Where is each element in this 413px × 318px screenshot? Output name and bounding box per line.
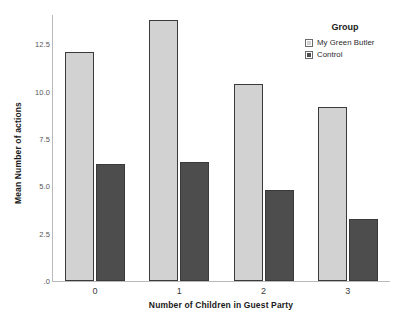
y-tick-label: 12.5 (4, 40, 50, 49)
x-tick-label: 3 (328, 286, 368, 296)
legend-swatch-icon (305, 51, 313, 59)
bar (65, 52, 94, 281)
x-axis-title: Number of Children in Guest Party (52, 300, 390, 310)
legend-entry: My Green Butler (305, 38, 413, 47)
bar (349, 219, 378, 281)
legend-swatch-icon (305, 39, 313, 47)
legend-entries: My Green ButlerControl (305, 38, 413, 59)
y-tick-label: 2.5 (4, 229, 50, 238)
legend-entry: Control (305, 50, 413, 59)
bar (149, 20, 178, 281)
y-tick-label: 7.5 (4, 135, 50, 144)
bar (265, 190, 294, 281)
legend-title: Group (309, 22, 381, 32)
x-tick-label: 1 (159, 286, 199, 296)
y-tick-label: .0 (4, 277, 50, 286)
bar-chart: .02.55.07.510.012.5 Mean Number of actio… (0, 0, 413, 318)
bar (96, 164, 125, 281)
y-tick-label: 5.0 (4, 182, 50, 191)
y-axis-title: Mean Number of actions (13, 73, 23, 233)
x-tick-label: 2 (244, 286, 284, 296)
x-axis-line (52, 281, 390, 282)
bar (234, 84, 263, 281)
bar (318, 107, 347, 281)
chart-title (36, 0, 326, 4)
legend-entry-label: Control (317, 50, 342, 59)
y-axis-ticks: .02.55.07.510.012.5 (0, 0, 50, 318)
y-tick-label: 10.0 (4, 87, 50, 96)
legend: Group My Green ButlerControl (305, 22, 413, 62)
legend-entry-label: My Green Butler (317, 38, 375, 47)
bar (180, 162, 209, 281)
x-tick-label: 0 (75, 286, 115, 296)
